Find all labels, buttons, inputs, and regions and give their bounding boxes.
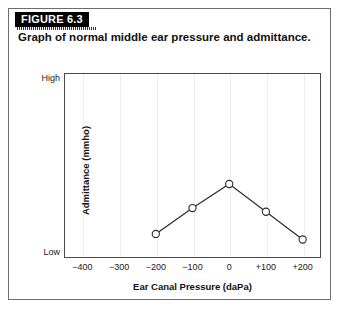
chart-canvas: High Low Admittance (mmho) −400−300−200−…: [0, 0, 340, 313]
data-point-4: [299, 236, 306, 243]
x-tick-label-1: −300: [99, 263, 139, 272]
y-axis-label-high: High: [26, 74, 60, 83]
y-axis-label-low: Low: [26, 248, 60, 257]
figure-container: FIGURE 6.3 Graph of normal middle ear pr…: [0, 0, 340, 313]
x-tick-label-5: +100: [246, 263, 286, 272]
data-point-2: [226, 180, 233, 187]
x-tick-label-0: −400: [62, 263, 102, 272]
x-axis-title: Ear Canal Pressure (daPa): [64, 281, 321, 292]
data-point-1: [189, 204, 196, 211]
x-tick-label-6: +200: [283, 263, 323, 272]
x-tick-label-4: 0: [209, 263, 249, 272]
data-series-layer: [64, 73, 321, 258]
x-tick-label-2: −200: [136, 263, 176, 272]
data-point-0: [152, 230, 159, 237]
data-point-3: [262, 208, 269, 215]
y-axis-tick-labels: High Low: [24, 0, 60, 313]
series-line: [156, 184, 303, 240]
x-tick-label-3: −100: [173, 263, 213, 272]
